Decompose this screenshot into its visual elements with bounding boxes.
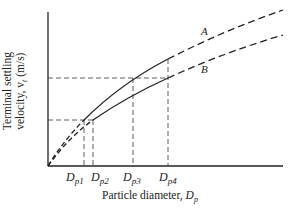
curve-a: [48, 10, 283, 166]
y-axis-label-line1: Terminal settling: [1, 31, 14, 151]
tick-dp3: Dp3: [123, 170, 141, 186]
y-axis-label: Terminal settling velocity, vt (m/s): [1, 31, 31, 151]
settling-velocity-diagram: [0, 0, 294, 215]
x-axis-label: Particle diameter, Dp: [0, 189, 260, 204]
tick-dp2: Dp2: [91, 170, 109, 186]
tick-dp1: Dp1: [66, 170, 84, 186]
curve-a-label: A: [201, 25, 208, 37]
curve-b: [48, 35, 283, 166]
tick-dp4: Dp4: [159, 170, 177, 186]
y-axis-label-line2: velocity, vt (m/s): [14, 31, 31, 151]
curve-b-label: B: [201, 63, 208, 75]
